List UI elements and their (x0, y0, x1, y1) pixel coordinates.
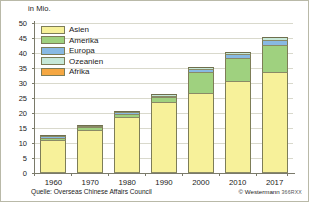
legend-label: Ozeanien (69, 57, 103, 66)
bar-segment-asien (262, 73, 288, 174)
bar-segment-asien (225, 82, 251, 174)
legend-item-europa: Europa (41, 46, 103, 56)
copyright-code: 366RXX (281, 189, 302, 195)
x-tick-mark (256, 173, 257, 176)
legend-item-amerika: Amerika (41, 36, 103, 46)
legend-swatch-afrika (41, 68, 65, 76)
bar-segment-amerika (188, 73, 214, 93)
bar-segment-amerika (225, 59, 251, 82)
x-tick-label-2010: 2010 (229, 178, 246, 187)
bar-2010 (225, 52, 251, 173)
bar-segment-asien (188, 94, 214, 174)
y-tick-mark (32, 143, 35, 144)
x-tick-label-1970: 1970 (82, 178, 99, 187)
y-tick-mark (32, 83, 35, 84)
y-tick-mark (32, 98, 35, 99)
y-tick-label: 15 (19, 124, 27, 133)
legend-item-asien: Asien (41, 25, 103, 35)
source-caption: Quelle: Overseas Chinese Affairs Council (31, 188, 152, 195)
bar-1980 (114, 111, 140, 173)
x-tick-label-1990: 1990 (155, 178, 172, 187)
y-tick-label: 5 (23, 154, 27, 163)
legend-label: Asien (69, 25, 89, 34)
bar-segment-asien (40, 141, 66, 173)
x-tick-mark (145, 173, 146, 176)
x-tick-label-2000: 2000 (192, 178, 209, 187)
y-tick-mark (32, 53, 35, 54)
y-tick-mark (32, 38, 35, 39)
copyright-text: © Westermann (238, 188, 279, 195)
x-tick-label-1980: 1980 (118, 178, 135, 187)
bar-segment-asien (77, 131, 103, 173)
y-tick-label: 20 (19, 109, 27, 118)
y-tick-label: 0 (23, 169, 27, 178)
legend-item-afrika: Afrika (41, 67, 103, 77)
legend-swatch-europa (41, 47, 65, 55)
y-tick-mark (32, 68, 35, 69)
y-tick-mark (32, 23, 35, 24)
bar-2017 (262, 37, 288, 173)
y-tick-label: 45 (19, 34, 27, 43)
y-tick-label: 40 (19, 49, 27, 58)
y-tick-mark (32, 128, 35, 129)
bar-1960 (40, 135, 66, 173)
x-tick-mark (71, 173, 72, 176)
legend-label: Europa (69, 46, 95, 55)
copyright-caption: © Westermann 366RXX (238, 188, 302, 195)
bar-1990 (151, 94, 177, 173)
y-tick-label: 10 (19, 139, 27, 148)
bar-segment-asien (114, 118, 140, 173)
bar-2000 (188, 67, 214, 173)
x-tick-label-1960: 1960 (45, 178, 62, 187)
y-tick-label: 30 (19, 79, 27, 88)
legend-swatch-asien (41, 26, 65, 34)
legend-item-ozeanien: Ozeanien (41, 57, 103, 67)
bar-segment-asien (151, 103, 177, 173)
legend-label: Afrika (69, 67, 89, 76)
legend-swatch-amerika (41, 36, 65, 44)
bar-1970 (77, 125, 103, 173)
y-tick-label: 25 (19, 94, 27, 103)
x-tick-label-2017: 2017 (266, 178, 283, 187)
legend-swatch-ozeanien (41, 57, 65, 65)
x-tick-mark (108, 173, 109, 176)
y-tick-mark (32, 158, 35, 159)
y-tick-label: 50 (19, 19, 27, 28)
x-tick-mark (34, 173, 35, 176)
legend-label: Amerika (69, 36, 98, 45)
gridline (35, 23, 293, 24)
x-tick-mark (182, 173, 183, 176)
y-tick-label: 35 (19, 64, 27, 73)
gridline (35, 83, 293, 84)
x-tick-mark (287, 173, 288, 176)
y-tick-mark (32, 113, 35, 114)
x-tick-mark (219, 173, 220, 176)
chart-legend: AsienAmerikaEuropaOzeanienAfrika (41, 25, 103, 77)
chart-figure: in Mio. 05101520253035404550196019701980… (0, 0, 309, 202)
bar-segment-amerika (262, 46, 288, 73)
y-axis-unit-label: in Mio. (28, 4, 51, 13)
